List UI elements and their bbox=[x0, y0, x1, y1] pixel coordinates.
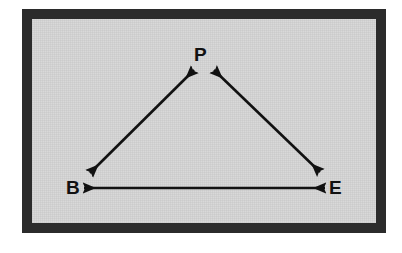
diagram-canvas: P B E bbox=[0, 0, 402, 253]
figure-root: P B E bbox=[0, 0, 402, 253]
arrow-b-p bbox=[90, 70, 194, 173]
node-label-e: E bbox=[329, 178, 342, 197]
triangle-diagram-svg bbox=[0, 0, 402, 253]
node-label-p: P bbox=[194, 45, 207, 64]
arrow-p-e bbox=[214, 70, 320, 172]
node-label-b: B bbox=[66, 178, 80, 197]
